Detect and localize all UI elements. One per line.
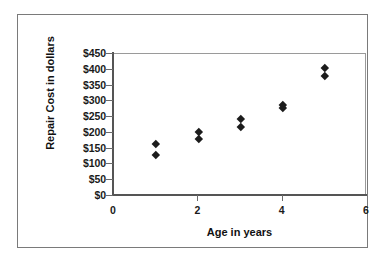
y-axis-tick-label: $0 [60, 190, 106, 200]
y-axis-tick [106, 163, 113, 164]
y-axis-tick [106, 69, 113, 70]
y-axis-tick [106, 148, 113, 149]
data-point-marker [194, 135, 202, 143]
data-point-marker [321, 72, 329, 80]
chart-object-frame: Repair Cost in dollars $0$50$100$150$200… [17, 14, 368, 248]
y-axis-tick-labels: $0$50$100$150$200$250$300$350$400$450 [56, 15, 106, 262]
x-axis-title: Age in years [113, 226, 366, 238]
y-axis-line [112, 52, 114, 196]
scatter-chart: Repair Cost in dollars $0$50$100$150$200… [0, 0, 385, 262]
y-axis-tick-label: $300 [60, 95, 106, 105]
y-axis-tick-label: $100 [60, 158, 106, 168]
y-axis-tick [106, 53, 113, 54]
y-axis-tick-label: $250 [60, 111, 106, 121]
y-axis-tick [106, 132, 113, 133]
x-axis-tick-label: 0 [98, 205, 128, 216]
y-axis-tick [106, 179, 113, 180]
y-axis-tick [106, 195, 113, 196]
data-point-marker [279, 104, 287, 112]
x-axis-tick [282, 195, 283, 201]
y-axis-title: Repair Cost in dollars [44, 18, 56, 168]
y-axis-tick [106, 100, 113, 101]
y-axis-tick [106, 116, 113, 117]
y-axis-tick-label: $150 [60, 143, 106, 153]
x-axis-line [112, 194, 367, 196]
data-point-marker [152, 140, 160, 148]
y-axis-tick-label: $450 [60, 48, 106, 58]
x-axis-tick-label: 2 [182, 205, 212, 216]
data-point-marker [237, 115, 245, 123]
plot-area [113, 53, 366, 195]
x-axis-tick-label: 6 [351, 205, 381, 216]
y-axis-tick-label: $200 [60, 127, 106, 137]
x-axis-tick [197, 195, 198, 201]
data-point-marker [152, 151, 160, 159]
data-point-marker [237, 123, 245, 131]
y-axis-tick [106, 85, 113, 86]
y-axis-tick-label: $50 [60, 174, 106, 184]
x-axis-tick-label: 4 [267, 205, 297, 216]
y-axis-tick-label: $400 [60, 64, 106, 74]
y-axis-tick-label: $350 [60, 80, 106, 90]
